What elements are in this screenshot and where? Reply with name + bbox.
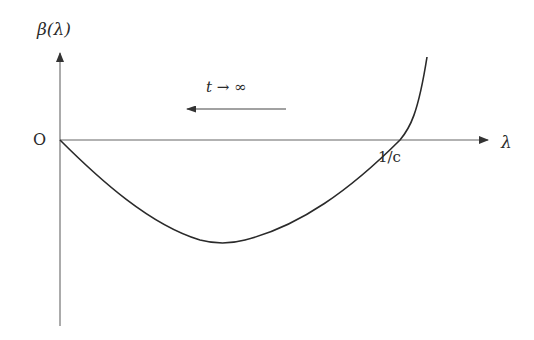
x-axis-label: λ [501, 134, 512, 151]
time-limit-annotation: t → ∞ [206, 80, 247, 95]
origin-label: O [33, 132, 46, 148]
root-label: 1/c [378, 150, 401, 165]
y-axis-label: β(λ) [37, 21, 71, 38]
beta-lambda-diagram [0, 0, 534, 340]
